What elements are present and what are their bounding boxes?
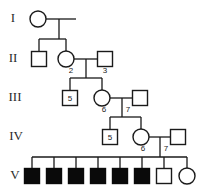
pedigree-diagram: I II III IV V 2 3 5 6 7 <box>0 0 206 192</box>
individual-v-2-male-square-affected[interactable] <box>47 169 62 184</box>
individual-ii-2-number: 2 <box>69 66 74 75</box>
individual-iii-6-number: 6 <box>102 105 107 114</box>
individual-i-1-female-circle[interactable] <box>30 11 46 27</box>
individual-v-1-male-square-affected[interactable] <box>25 169 40 184</box>
individual-ii-3-male-square[interactable] <box>98 52 113 67</box>
individual-iv-7-male-square[interactable] <box>171 130 186 145</box>
individual-ii-2-female-circle[interactable] <box>58 51 74 67</box>
generation-label-i: I <box>11 10 15 25</box>
generation-labels: I II III IV V <box>9 10 24 182</box>
generation-v-row <box>25 168 196 184</box>
generation-iv-row: 5 6 7 <box>103 129 186 153</box>
individual-v-6-male-square-affected[interactable] <box>135 169 150 184</box>
individual-iii-5-number: 5 <box>68 94 73 103</box>
individual-v-5-male-square-affected[interactable] <box>113 169 128 184</box>
individual-iii-7-number: 7 <box>126 105 131 114</box>
generation-i-row <box>30 11 46 27</box>
generation-label-v: V <box>10 167 20 182</box>
generation-label-iv: IV <box>9 128 23 143</box>
individual-ii-1-male-square[interactable] <box>32 52 47 67</box>
individual-v-4-male-square-affected[interactable] <box>91 169 106 184</box>
individual-iii-7-male-square[interactable] <box>133 91 148 106</box>
generation-iii-row: 5 6 7 <box>63 90 148 114</box>
individual-v-3-male-square-affected[interactable] <box>69 169 84 184</box>
generation-ii-row: 2 3 <box>32 51 113 75</box>
individual-ii-3-number: 3 <box>103 66 108 75</box>
pedigree-chart: I II III IV V 2 3 5 6 7 <box>0 0 206 192</box>
generation-label-iii: III <box>9 89 22 104</box>
individual-iii-6-female-circle[interactable] <box>94 90 110 106</box>
individual-iv-5-number: 5 <box>108 133 113 142</box>
generation-label-ii: II <box>9 50 18 65</box>
individual-v-8-female-circle[interactable] <box>179 168 195 184</box>
individual-iv-6-female-circle[interactable] <box>133 129 149 145</box>
individual-iv-7-number: 7 <box>164 144 169 153</box>
individual-v-7-male-square[interactable] <box>157 169 172 184</box>
individual-iv-6-number: 6 <box>141 144 146 153</box>
